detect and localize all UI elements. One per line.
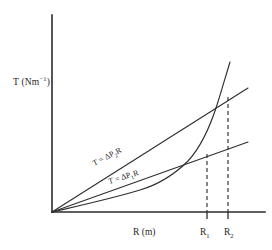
y-axis-label: T (Nm−1) <box>13 76 50 88</box>
x-tick-label-r1-sub: 1 <box>206 232 209 239</box>
series-curve-tension <box>52 62 230 212</box>
plot-area <box>0 0 272 250</box>
y-axis-label-exponent: −1 <box>39 75 46 82</box>
series-line-delta-p1 <box>52 142 248 212</box>
x-tick-label-r2: R2 <box>224 228 234 239</box>
x-tick-label-r2-sub: 2 <box>230 232 233 239</box>
figure-container: T (Nm−1) R (m) R1 R2 T = ΔP2R T = ΔP1R <box>0 0 272 250</box>
series-line-delta-p2 <box>52 88 248 212</box>
x-axis-label: R (m) <box>133 228 155 238</box>
x-tick-label-r1: R1 <box>200 228 210 239</box>
y-axis-label-close: ) <box>47 77 50 87</box>
y-axis-label-base: T (Nm <box>13 77 39 87</box>
